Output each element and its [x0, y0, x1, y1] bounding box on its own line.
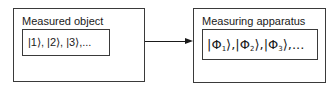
arrow-line — [145, 41, 186, 42]
measured-object-states-box: |1⟩, |2⟩, |3⟩,... — [22, 29, 110, 56]
measured-object-states: |1⟩, |2⟩, |3⟩,... — [23, 36, 91, 49]
measured-object-title: Measured object — [22, 15, 103, 27]
measuring-apparatus-states: |Φ1⟩,|Φ2⟩,|Φ3⟩,... — [203, 37, 304, 53]
ket-phi-1: |Φ1⟩, — [207, 37, 235, 52]
trailing-ellipsis: ,... — [288, 37, 305, 52]
ket-phi-3: |Φ3⟩ — [264, 37, 288, 52]
arrow-head-icon — [185, 38, 193, 44]
measuring-apparatus-states-box: |Φ1⟩,|Φ2⟩,|Φ3⟩,... — [202, 29, 318, 60]
measuring-apparatus-title: Measuring apparatus — [202, 15, 305, 27]
ket-phi-2: |Φ2⟩, — [235, 37, 263, 52]
